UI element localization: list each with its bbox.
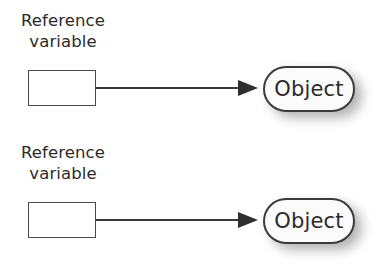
reference-arrow-line-2 — [96, 219, 248, 221]
object-node-2: Object — [263, 198, 355, 244]
reference-variable-box-1 — [28, 70, 96, 106]
reference-variable-label-line2: variable — [8, 163, 118, 184]
arrow-head-icon — [238, 80, 258, 96]
reference-arrow-line-1 — [96, 87, 248, 89]
reference-variable-diagram: Reference variable Object Reference vari… — [0, 0, 386, 269]
reference-variable-box-2 — [28, 202, 96, 238]
object-node-label-2: Object — [274, 211, 344, 232]
reference-variable-label-line1: Reference — [8, 142, 118, 163]
reference-object-group-1: Reference variable Object — [0, 10, 386, 130]
arrow-head-icon — [238, 212, 258, 228]
object-node-label-1: Object — [274, 79, 344, 100]
reference-variable-label-line1: Reference — [8, 10, 118, 31]
reference-variable-label-line2: variable — [8, 31, 118, 52]
reference-object-group-2: Reference variable Object — [0, 142, 386, 262]
reference-variable-label-1: Reference variable — [8, 10, 118, 52]
object-node-1: Object — [263, 66, 355, 112]
reference-variable-label-2: Reference variable — [8, 142, 118, 184]
